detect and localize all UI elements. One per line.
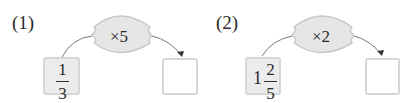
operator-text: ×2 xyxy=(312,27,330,47)
denominator: 5 xyxy=(266,85,275,102)
problem-1: (1) ×5 1 3 xyxy=(0,0,204,103)
operator-text: ×5 xyxy=(110,27,128,47)
fraction: 1 3 xyxy=(56,61,69,102)
denominator: 3 xyxy=(58,85,67,102)
given-number-box: 1 3 xyxy=(43,57,80,95)
problem-2: (2) ×2 1 2 5 xyxy=(204,0,408,103)
answer-box[interactable] xyxy=(365,58,400,95)
given-number-box: 1 2 5 xyxy=(245,57,281,95)
fraction: 2 5 xyxy=(264,61,277,102)
whole-number: 1 xyxy=(253,68,262,89)
numerator: 1 xyxy=(58,61,67,78)
numerator: 2 xyxy=(266,61,275,78)
answer-box[interactable] xyxy=(162,58,198,95)
